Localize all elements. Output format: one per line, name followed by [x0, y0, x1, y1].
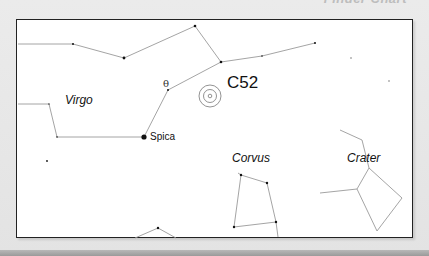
virgo-upper-line [18, 26, 315, 62]
spica-star [141, 134, 146, 139]
star-chart [0, 0, 429, 256]
constellation-label-crater: Crater [347, 151, 380, 165]
virgo-lower-line [18, 104, 144, 137]
crater-cup [357, 168, 402, 231]
star-label-theta: θ [163, 78, 169, 89]
object-label-c52: C52 [227, 73, 258, 93]
bottom-shadow-band [0, 250, 429, 256]
stars [46, 25, 390, 252]
star-label-spica: Spica [150, 131, 175, 142]
hydra-segment [135, 228, 176, 238]
corvus-lines [234, 175, 276, 227]
virgo-theta-spica-line [144, 62, 221, 137]
constellation-label-corvus: Corvus [232, 151, 270, 165]
c52-target-icon [199, 85, 221, 107]
constellation-label-virgo: Virgo [65, 93, 93, 107]
constellation-lines [18, 26, 402, 238]
